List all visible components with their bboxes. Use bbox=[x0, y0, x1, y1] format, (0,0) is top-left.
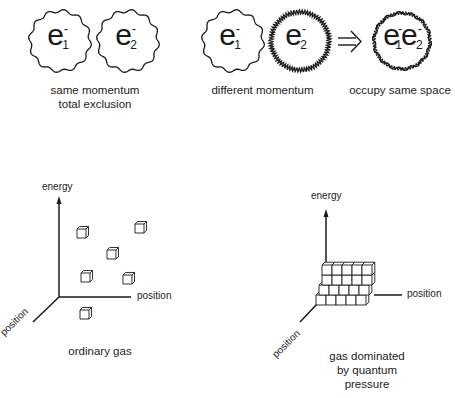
degenerate-particle-stack bbox=[316, 262, 375, 305]
electron-label-3: e-1 bbox=[208, 18, 258, 52]
caption-ordinary-gas: ordinary gas bbox=[50, 344, 150, 358]
caption-same-momentum: same momentum total exclusion bbox=[30, 83, 160, 111]
implies-arrow-icon bbox=[338, 31, 361, 52]
diagram-canvas bbox=[0, 0, 455, 398]
ordinary-gas-position-x-label: position bbox=[137, 290, 171, 301]
quantum-gas-position-x-label: position bbox=[407, 288, 441, 299]
ordinary-gas-energy-label: energy bbox=[42, 181, 73, 192]
electron-label-1: e-1 bbox=[36, 18, 86, 52]
caption-occupy-same-space: occupy same space bbox=[345, 83, 455, 97]
caption-different-momentum: different momentum bbox=[205, 83, 320, 97]
gas-particles bbox=[77, 221, 147, 319]
electron-label-2: e-2 bbox=[104, 18, 154, 52]
electron-label-4: e-2 bbox=[274, 18, 324, 52]
combined-electron-label: e-1e-2 bbox=[366, 18, 446, 52]
quantum-gas-energy-label: energy bbox=[311, 190, 342, 201]
caption-quantum-gas: gas dominated by quantum pressure bbox=[312, 349, 422, 391]
